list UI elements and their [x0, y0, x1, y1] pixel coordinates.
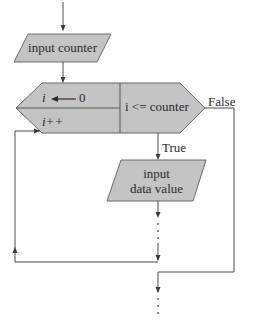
- loop-condition: i <= counter: [125, 100, 189, 113]
- loop-body-continuation: [156, 201, 161, 261]
- loop-increment: i++: [42, 115, 63, 128]
- true-label: True: [162, 141, 186, 154]
- true-branch-line: [156, 133, 161, 160]
- arrow-to-loop: [61, 62, 66, 83]
- loop-init-var: i: [42, 91, 46, 104]
- input-data-label-line2: data value: [110, 182, 203, 195]
- input-data-label-line1: input: [110, 167, 203, 180]
- false-branch-line: [156, 108, 235, 314]
- loop-init-value: 0: [79, 91, 86, 104]
- false-label: False: [208, 95, 235, 108]
- entry-arrow: [61, 2, 66, 31]
- input-counter-label: input counter: [14, 41, 111, 54]
